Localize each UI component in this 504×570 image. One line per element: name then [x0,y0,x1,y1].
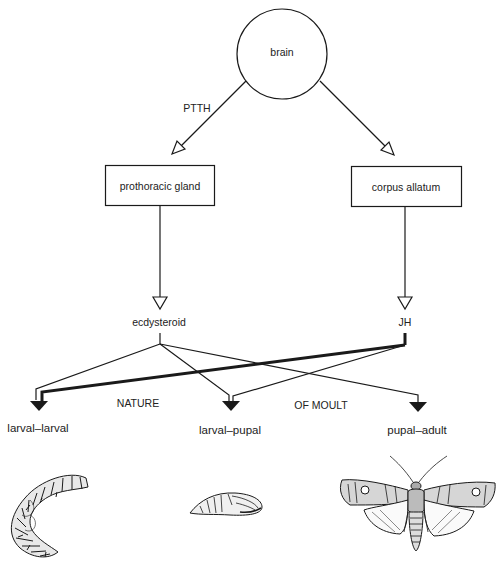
open-arrowhead-icon [398,297,412,309]
moth-icon [340,456,495,551]
pupa-icon [190,493,262,515]
outcome-larval-pupal: larval–pupal [199,425,261,437]
brain-label: brain [270,47,293,58]
jh-label: JH [399,317,412,328]
open-arrowhead-icon [153,297,167,309]
prothoracic-gland-label: prothoracic gland [120,181,201,192]
edge-jh-to-larval-pupal [233,345,405,401]
solid-arrowhead-icon [30,401,48,411]
outcome-pupal-adult: pupal–adult [387,425,446,437]
edge-brain-to-corpus-allatum [320,81,387,148]
edge-brain-to-prothoracic [179,81,246,148]
solid-arrowhead-icon [409,402,427,412]
edge-jh-to-larval-larval [42,345,405,401]
ptth-edge-label: PTTH [183,103,210,114]
caterpillar-icon [11,475,88,557]
ecdysteroid-label: ecdysteroid [132,317,186,328]
corpus-allatum-label: corpus allatum [372,182,440,193]
open-arrowhead-icon [172,141,185,154]
caption-of-moult: OF MOULT [294,400,347,411]
outcome-larval-larval: larval–larval [7,423,68,435]
caption-nature: NATURE [117,398,159,409]
diagram-canvas [0,0,504,570]
solid-arrowhead-icon [222,401,240,411]
